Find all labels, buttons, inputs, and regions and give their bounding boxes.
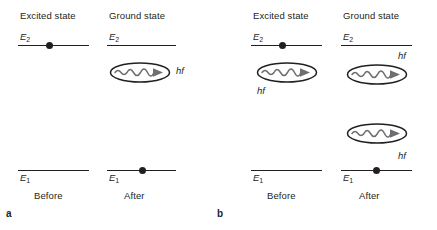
E2-subscript: 2	[26, 36, 30, 43]
E2-subscript: 2	[115, 36, 119, 43]
panel-a-after-level-E1-label: E1	[109, 172, 119, 183]
panel-b-after-level-E1-label: E1	[343, 172, 353, 183]
panel-a-spontaneous-emission: Excited state Ground state E2 E1 Before …	[0, 0, 210, 230]
panel-b-photon-incoming-hf-label: hf	[257, 85, 265, 96]
E2-subscript: 2	[349, 36, 353, 43]
panel-a-before-level-E1-label: E1	[20, 172, 30, 183]
energy-level-figure: Excited state Ground state E2 E1 Before …	[0, 0, 437, 230]
panel-b-before-level-E2-label: E2	[253, 31, 263, 42]
panel-b-photon-2-hf-label: hf	[398, 150, 406, 161]
panel-b-before-level-E2-line	[251, 45, 322, 46]
panel-a-letter: a	[6, 208, 12, 219]
panel-b-before-footer: Before	[267, 190, 296, 201]
panel-b-photon-1-hf-label: hf	[398, 50, 406, 61]
panel-b-after-electron-E1	[373, 167, 380, 174]
panel-b-before-level-E1-label: E1	[253, 172, 263, 183]
panel-a-before-level-E2-line	[18, 45, 89, 46]
E1-subscript: 1	[349, 177, 353, 184]
panel-b-excited-state-header: Excited state	[253, 10, 309, 21]
panel-a-after-level-E2-line	[107, 45, 176, 46]
panel-b-stimulated-emission: Excited state Ground state E2 hf E1 Befo…	[212, 0, 437, 230]
E1-subscript: 1	[115, 177, 119, 184]
panel-b-after-footer: After	[359, 190, 380, 201]
panel-b-letter: b	[217, 208, 223, 219]
panel-b-after-level-E2-line	[341, 45, 412, 46]
panel-b-photon-1	[346, 63, 408, 86]
panel-b-before-electron-E2	[279, 42, 286, 49]
panel-b-after-level-E2-label: E2	[343, 31, 353, 42]
panel-b-ground-state-header: Ground state	[343, 10, 399, 21]
E1-subscript: 1	[26, 177, 30, 184]
panel-a-before-footer: Before	[34, 190, 63, 201]
panel-a-before-level-E1-line	[18, 170, 89, 171]
panel-b-before-level-E1-line	[251, 170, 322, 171]
panel-b-photon-incoming	[256, 61, 318, 84]
panel-a-before-level-E2-label: E2	[20, 31, 30, 42]
panel-a-after-electron-E1	[139, 167, 146, 174]
panel-a-ground-state-header: Ground state	[109, 10, 165, 21]
panel-a-before-electron-E2	[46, 42, 53, 49]
panel-a-after-level-E2-label: E2	[109, 31, 119, 42]
panel-a-photon-emitted	[109, 61, 171, 84]
E2-subscript: 2	[259, 36, 263, 43]
E1-subscript: 1	[259, 177, 263, 184]
panel-a-excited-state-header: Excited state	[20, 10, 76, 21]
panel-a-photon-hf-label: hf	[176, 65, 184, 76]
panel-a-after-footer: After	[124, 190, 145, 201]
panel-b-photon-2	[346, 122, 408, 145]
